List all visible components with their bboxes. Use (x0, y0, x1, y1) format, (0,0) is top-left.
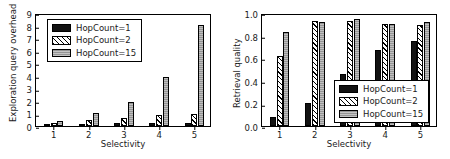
legend-swatch-hopcount-2-icon (339, 97, 358, 106)
y-axis-tick-label: 8 (27, 23, 36, 32)
y-axis-label-left: Exploration query overhead (9, 4, 18, 122)
x-axis-tick-label: 2 (312, 131, 317, 140)
bar-hopcount-2-cat-2 (86, 120, 92, 126)
y-axis-label-right: Retrieval quality (233, 38, 242, 108)
legend-swatch-hopcount-1-icon (339, 85, 358, 94)
x-axis-tick-label: 3 (121, 131, 126, 140)
x-axis-tick-label: 4 (382, 131, 387, 140)
legend-item: HopCount=2 (339, 97, 423, 107)
figure-two-panel-bar-charts: Exploration query overhead 0123456789 12… (0, 0, 450, 159)
y-axis-tick-label: 1 (27, 111, 36, 120)
y-axis-tick-label: 0.2 (244, 101, 262, 110)
legend-label: HopCount=2 (76, 36, 131, 45)
x-axis-label-right: Selectivity (261, 140, 437, 149)
bar-hopcount-1-cat-3 (114, 123, 120, 126)
legend-label: HopCount=1 (363, 85, 418, 94)
bar-hopcount-2-cat-2 (312, 21, 318, 126)
legend-swatch-hopcount-2-icon (52, 36, 71, 45)
legend-item: HopCount=1 (339, 84, 423, 94)
y-axis-tick-label: 4 (27, 74, 36, 83)
y-axis-tick-label: 2 (27, 99, 36, 108)
y-axis-tick-label: 0.6 (244, 56, 262, 65)
y-axis-tick-label: 0 (27, 124, 36, 133)
x-axis-tick-label: 1 (277, 131, 282, 140)
x-axis-label-left: Selectivity (35, 140, 211, 149)
bar-hopcount-1-cat-2 (305, 103, 311, 126)
x-axis-tick-label: 4 (156, 131, 161, 140)
x-axis-tick-label: 5 (192, 131, 197, 140)
bar-hopcount-15-cat-1 (57, 121, 63, 126)
y-axis-tick-label: 6 (27, 48, 36, 57)
x-axis-tick-label: 1 (51, 131, 56, 140)
y-axis-tick-label: 7 (27, 36, 36, 45)
y-axis-tick-label: 5 (27, 61, 36, 70)
bar-hopcount-1-cat-1 (44, 124, 50, 126)
y-axis-tick-label: 0.0 (244, 124, 262, 133)
bar-hopcount-1-cat-5 (185, 123, 191, 127)
bar-hopcount-2-cat-5 (191, 114, 197, 126)
legend-item: HopCount=15 (339, 109, 423, 119)
legend-right: HopCount=1 HopCount=2 HopCount=15 (334, 80, 429, 123)
bar-hopcount-2-cat-1 (277, 56, 283, 126)
legend-left: HopCount=1 HopCount=2 HopCount=15 (47, 19, 142, 62)
bar-hopcount-15-cat-2 (93, 113, 99, 126)
panel-retrieval-quality: Retrieval quality 0.00.20.40.60.81.0 123… (225, 0, 450, 159)
legend-swatch-hopcount-15-icon (52, 49, 71, 58)
bar-hopcount-15-cat-1 (283, 32, 289, 126)
bar-hopcount-1-cat-1 (270, 117, 276, 126)
legend-item: HopCount=15 (52, 48, 136, 58)
y-axis-tick-label: 9 (27, 11, 36, 20)
bar-hopcount-15-cat-4 (163, 77, 169, 126)
bar-hopcount-15-cat-5 (198, 25, 204, 126)
bar-hopcount-1-cat-2 (79, 124, 85, 126)
legend-label: HopCount=15 (76, 49, 136, 58)
legend-label: HopCount=15 (363, 110, 423, 119)
y-axis-tick-label: 0.4 (244, 79, 262, 88)
legend-item: HopCount=1 (52, 23, 136, 33)
legend-label: HopCount=2 (363, 97, 418, 106)
bar-hopcount-15-cat-3 (128, 102, 134, 126)
x-axis-tick-label: 2 (86, 131, 91, 140)
legend-swatch-hopcount-15-icon (339, 110, 358, 119)
bar-hopcount-2-cat-4 (156, 115, 162, 126)
panel-exploration-query-overhead: Exploration query overhead 0123456789 12… (0, 0, 225, 159)
bar-hopcount-1-cat-4 (149, 123, 155, 126)
bar-hopcount-15-cat-2 (319, 22, 325, 126)
x-axis-tick-label: 3 (347, 131, 352, 140)
bar-hopcount-2-cat-3 (121, 118, 127, 126)
y-axis-tick-label: 0.8 (244, 33, 262, 42)
legend-swatch-hopcount-1-icon (52, 24, 71, 33)
legend-label: HopCount=1 (76, 24, 131, 33)
x-axis-tick-label: 5 (418, 131, 423, 140)
legend-item: HopCount=2 (52, 36, 136, 46)
y-axis-tick-label: 1.0 (244, 11, 262, 20)
y-axis-tick-label: 3 (27, 86, 36, 95)
